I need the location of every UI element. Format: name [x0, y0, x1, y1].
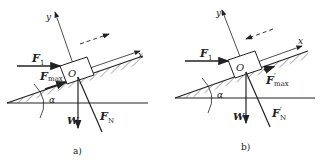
free-body-diagrams: y x O F 1 F max W F N α a) y — [0, 0, 321, 165]
panel-a: y x O F 1 F max W F N α a) — [7, 12, 148, 156]
friction-subscript: max — [48, 75, 63, 83]
panel-b-caption: b) — [241, 142, 250, 152]
normal-force-subscript: N — [280, 114, 286, 122]
x-axis-label: x — [298, 36, 303, 46]
y-axis-label: y — [45, 12, 52, 22]
origin-label: O — [68, 68, 76, 79]
panel-a-caption: a) — [73, 146, 82, 156]
normal-force-subscript: N — [108, 117, 114, 125]
normal-force-prime: ′ — [280, 105, 282, 114]
friction-subscript: max — [274, 80, 289, 88]
angle-label: α — [217, 90, 223, 100]
f1-subscript: 1 — [208, 54, 212, 62]
friction-prime: ′ — [274, 71, 276, 80]
weight-label: W — [67, 115, 80, 126]
angle-arc — [34, 84, 44, 118]
f1-subscript: 1 — [40, 59, 44, 67]
y-axis-label: y — [215, 8, 222, 18]
weight-label: W — [233, 111, 246, 122]
motion-arrow — [80, 34, 109, 44]
normal-force-line — [78, 77, 102, 132]
origin-label: O — [236, 62, 244, 73]
angle-label: α — [49, 95, 55, 105]
panel-b: y x O F 1 F ′ max W F ′ N α b) — [175, 8, 315, 152]
angle-arc — [202, 78, 212, 113]
motion-arrow — [246, 29, 273, 39]
x-axis-label: x — [138, 50, 143, 60]
